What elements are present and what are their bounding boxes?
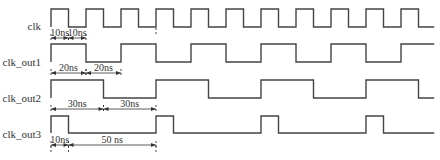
duration-annotation: 10ns xyxy=(50,134,69,149)
arrow-right-icon xyxy=(151,143,156,147)
duration-label: 30ns xyxy=(68,98,87,109)
duration-label: 30ns xyxy=(120,98,139,109)
duration-label: 20ns xyxy=(59,62,78,73)
arrow-left-icon xyxy=(51,71,56,75)
arrow-right-icon xyxy=(151,107,156,111)
duration-annotation: 10ns xyxy=(50,27,69,42)
waveform-clk xyxy=(51,9,434,27)
waveform-clk_out1 xyxy=(51,44,434,62)
signal-label-clk_out1: clk_out1 xyxy=(3,56,42,68)
arrow-left-icon xyxy=(51,107,56,111)
signal-label-clk_out2: clk_out2 xyxy=(3,92,42,104)
duration-label: 10ns xyxy=(68,27,87,38)
duration-label: 20ns xyxy=(94,62,113,73)
duration-annotation: 10ns xyxy=(68,27,87,42)
duration-label: 50 ns xyxy=(102,134,124,145)
duration-label: 10ns xyxy=(50,27,69,38)
duration-label: 10ns xyxy=(50,134,69,145)
duration-annotation: 50 ns xyxy=(69,134,157,149)
duration-annotation: 30ns xyxy=(51,98,104,113)
waveform-clk_out3 xyxy=(51,116,434,133)
duration-annotation: 30ns xyxy=(104,98,157,113)
arrow-right-icon xyxy=(81,71,86,75)
waveform-clk_out2 xyxy=(51,80,434,98)
signal-label-clk_out3: clk_out3 xyxy=(3,128,42,140)
duration-annotation: 20ns xyxy=(86,62,121,77)
arrow-left-icon xyxy=(69,143,74,147)
duration-annotation: 20ns xyxy=(51,62,86,77)
arrow-left-icon xyxy=(86,71,91,75)
signal-label-clk: clk xyxy=(28,20,42,32)
timing-diagram: clkclk_out1clk_out2clk_out3 10ns10ns20ns… xyxy=(0,0,440,160)
arrow-right-icon xyxy=(99,107,104,111)
arrow-right-icon xyxy=(116,71,121,75)
arrow-left-icon xyxy=(104,107,109,111)
